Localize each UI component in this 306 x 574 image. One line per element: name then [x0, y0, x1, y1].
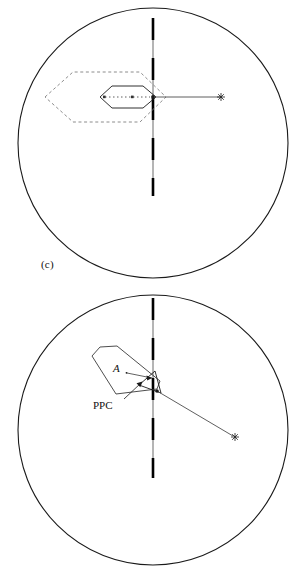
arrow-origin-node — [155, 389, 159, 393]
dotted-segment-start-marker — [103, 96, 106, 99]
panel-d: A PPC (d) — [0, 287, 306, 574]
label-A: A — [112, 362, 120, 374]
panel-c-label: (c) — [41, 258, 54, 270]
label-PPC: PPC — [93, 399, 113, 411]
oblique-arrow-shaft — [157, 391, 233, 436]
pentagon-outline — [92, 346, 160, 394]
arrow-tip-star-marker — [217, 93, 225, 101]
panel-d-canvas: A PPC — [0, 287, 306, 574]
arrow-tip-star-marker — [231, 433, 239, 441]
inner-solid-hexagon — [100, 86, 156, 108]
arrow-origin-node — [151, 95, 155, 99]
label-A-leader-dot — [126, 372, 128, 374]
figure-root: (c) — [0, 0, 306, 574]
dotted-segment-mid-marker — [131, 96, 134, 99]
panel-c-canvas — [0, 0, 306, 287]
panel-c: (c) — [0, 0, 306, 287]
